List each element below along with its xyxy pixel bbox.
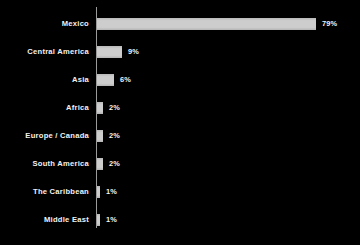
bar — [97, 186, 100, 198]
bar-value-label: 79% — [322, 20, 337, 27]
bar-chart: Mexico79%Central America9%Asia6%Africa2%… — [0, 0, 360, 245]
bar-row: South America2% — [0, 158, 360, 170]
bar-and-value: 2% — [97, 158, 120, 170]
bar-and-value: 1% — [97, 186, 117, 198]
bar-row: Europe / Canada2% — [0, 130, 360, 142]
bar — [97, 158, 103, 170]
bar — [97, 18, 316, 30]
category-label: Middle East — [44, 216, 89, 224]
bar — [97, 130, 103, 142]
bar-and-value: 1% — [97, 214, 117, 226]
category-label: The Caribbean — [33, 188, 89, 196]
bar-and-value: 6% — [97, 74, 131, 86]
bar-value-label: 9% — [128, 48, 139, 55]
bar — [97, 74, 114, 86]
bar-row: Mexico79% — [0, 18, 360, 30]
bar — [97, 102, 103, 114]
bar-row: Middle East1% — [0, 214, 360, 226]
category-label: Central America — [27, 48, 89, 56]
bar-value-label: 2% — [109, 104, 120, 111]
bar-value-label: 1% — [106, 216, 117, 223]
bar — [97, 214, 100, 226]
bar-value-label: 2% — [109, 132, 120, 139]
category-label: Europe / Canada — [25, 132, 89, 140]
bar-row: Central America9% — [0, 46, 360, 58]
category-label: Asia — [72, 76, 89, 84]
bar-value-label: 2% — [109, 160, 120, 167]
bar-row: Asia6% — [0, 74, 360, 86]
bar — [97, 46, 122, 58]
bar-and-value: 79% — [97, 18, 337, 30]
category-label: South America — [32, 160, 89, 168]
bar-value-label: 6% — [120, 76, 131, 83]
category-label: Africa — [66, 104, 89, 112]
bar-and-value: 2% — [97, 102, 120, 114]
bar-and-value: 9% — [97, 46, 139, 58]
bar-row: The Caribbean1% — [0, 186, 360, 198]
bar-value-label: 1% — [106, 188, 117, 195]
category-label: Mexico — [62, 20, 89, 28]
bar-row: Africa2% — [0, 102, 360, 114]
bar-and-value: 2% — [97, 130, 120, 142]
